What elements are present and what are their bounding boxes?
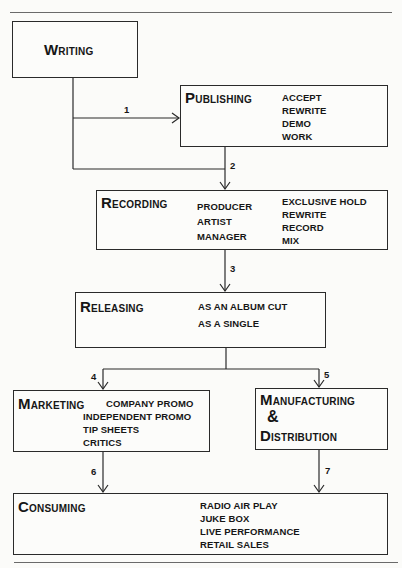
arrow-label-7: 7: [325, 465, 330, 476]
recording-box: RECORDING PRODUCER ARTIST MANAGER EXCLUS…: [96, 190, 388, 250]
marketing-box: MARKETING COMPANY PROMO INDEPENDENT PROM…: [13, 390, 210, 452]
releasing-items: AS AN ALBUM CUT AS A SINGLE: [198, 298, 287, 332]
writing-title: WRITING: [44, 41, 93, 58]
publishing-items: ACCEPT REWRITE DEMO WORK: [282, 91, 327, 143]
arrow-label-3: 3: [230, 263, 235, 274]
marketing-items: INDEPENDENT PROMO TIP SHEETS CRITICS: [83, 410, 191, 449]
arrow-label-4: 4: [91, 371, 96, 382]
marketing-title: MARKETING: [18, 395, 85, 412]
publishing-title: PUBLISHING: [185, 89, 252, 106]
recording-people: PRODUCER ARTIST MANAGER: [197, 199, 252, 244]
releasing-title: RELEASING: [80, 298, 144, 315]
manufacturing-distribution-box: MANUFACTURING & DISTRIBUTION: [255, 388, 388, 450]
manufacturing-title: MANUFACTURING: [260, 391, 355, 408]
ampersand: &: [267, 408, 279, 426]
arrow-label-6: 6: [91, 466, 96, 477]
consuming-box: CONSUMING RADIO AIR PLAY JUKE BOX LIVE P…: [13, 493, 388, 555]
recording-items: EXCLUSIVE HOLD REWRITE RECORD MIX: [282, 195, 367, 247]
writing-box: WRITING: [12, 21, 138, 78]
releasing-box: RELEASING AS AN ALBUM CUT AS A SINGLE: [75, 292, 326, 348]
publishing-box: PUBLISHING ACCEPT REWRITE DEMO WORK: [180, 85, 388, 147]
arrow-label-2: 2: [230, 160, 235, 171]
arrow-label-1: 1: [124, 104, 129, 115]
consuming-items: RADIO AIR PLAY JUKE BOX LIVE PERFORMANCE…: [200, 499, 300, 551]
recording-title: RECORDING: [101, 194, 168, 211]
consuming-title: CONSUMING: [18, 498, 86, 515]
distribution-title: DISTRIBUTION: [260, 427, 337, 444]
arrow-label-5: 5: [324, 369, 329, 380]
marketing-item-first: COMPANY PROMO: [106, 397, 194, 410]
